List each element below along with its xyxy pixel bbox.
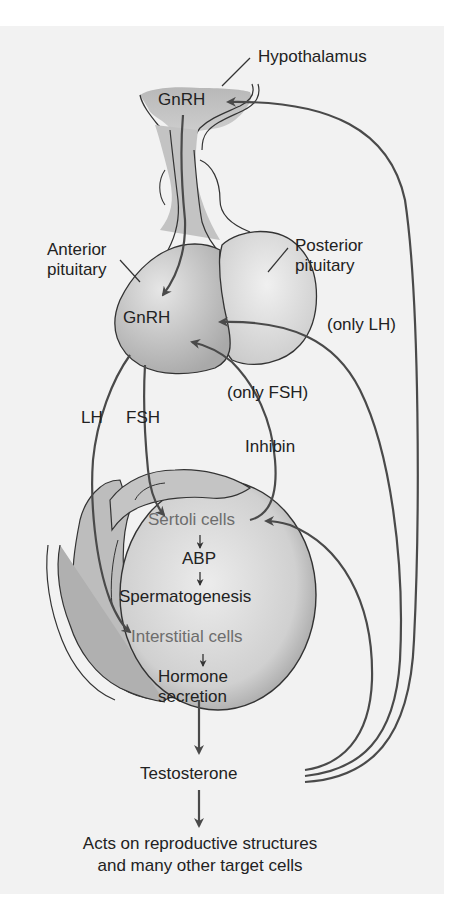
label-testosterone: Testosterone bbox=[140, 764, 237, 783]
label-posterior-pituitary-2: pituitary bbox=[295, 256, 355, 275]
label-only-fsh: (only FSH) bbox=[227, 383, 308, 402]
label-gnrh-hypothalamus: GnRH bbox=[158, 90, 205, 109]
label-acts-on-2: and many other target cells bbox=[40, 856, 360, 875]
label-sertoli-cells: Sertoli cells bbox=[148, 510, 235, 529]
label-hormone-secretion-1: Hormone bbox=[158, 667, 228, 686]
label-abp: ABP bbox=[182, 549, 216, 568]
label-anterior-pituitary-1: Anterior bbox=[47, 240, 107, 259]
label-posterior-pituitary-1: Posterior bbox=[295, 236, 363, 255]
label-hypothalamus: Hypothalamus bbox=[258, 47, 367, 66]
label-fsh: FSH bbox=[126, 408, 160, 427]
label-anterior-pituitary-2: pituitary bbox=[47, 260, 107, 279]
label-acts-on-1: Acts on reproductive structures bbox=[40, 834, 360, 853]
label-gnrh-pituitary: GnRH bbox=[123, 308, 170, 327]
label-hormone-secretion-2: secretion bbox=[158, 687, 227, 706]
label-only-lh: (only LH) bbox=[327, 315, 396, 334]
label-interstitial-cells: Interstitial cells bbox=[131, 627, 242, 646]
label-inhibin: Inhibin bbox=[245, 437, 295, 456]
arrows bbox=[92, 102, 418, 826]
label-spermatogenesis: Spermatogenesis bbox=[119, 587, 251, 606]
label-lh: LH bbox=[81, 408, 103, 427]
